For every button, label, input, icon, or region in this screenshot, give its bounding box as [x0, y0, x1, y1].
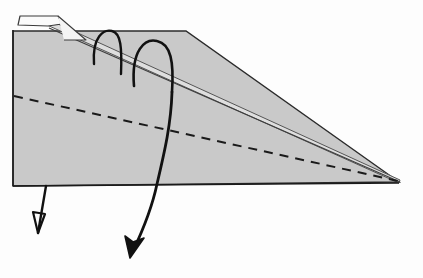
figure-canvas	[0, 0, 423, 278]
wedge-tab	[18, 16, 62, 26]
wedge-diagram	[0, 0, 423, 278]
